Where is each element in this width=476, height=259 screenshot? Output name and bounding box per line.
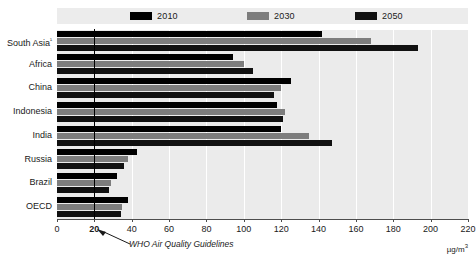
y-axis-label: Africa — [0, 60, 52, 69]
x-tick-label: 200 — [423, 225, 438, 234]
bar — [57, 187, 109, 193]
bar — [57, 45, 418, 51]
gridline-220 — [468, 29, 469, 219]
x-axis-line — [57, 219, 468, 220]
x-tick — [319, 219, 320, 222]
x-tick — [94, 219, 95, 222]
x-tick — [281, 219, 282, 222]
bar-group — [57, 78, 468, 100]
legend-label-2030: 2030 — [274, 12, 295, 21]
bar — [57, 116, 283, 122]
who-guideline-annotation: WHO Air Quality Guidelines — [129, 240, 234, 249]
x-tick-label: 180 — [386, 225, 401, 234]
bar — [57, 149, 137, 155]
x-tick-label: 120 — [274, 225, 289, 234]
bar — [57, 211, 121, 217]
bar-group — [57, 126, 468, 148]
bar — [57, 38, 371, 44]
bar — [57, 163, 124, 169]
bar — [57, 92, 274, 98]
y-axis-label: South Asia¹ — [0, 36, 52, 48]
y-axis-label: OECD — [0, 202, 52, 211]
bar-group — [57, 197, 468, 219]
bar — [57, 61, 244, 67]
who-guideline-reference-line — [94, 29, 95, 219]
bar — [57, 85, 281, 91]
x-tick — [169, 219, 170, 222]
bar-group — [57, 173, 468, 195]
x-tick — [393, 219, 394, 222]
bar — [57, 197, 128, 203]
callout-arrow-icon — [96, 228, 132, 246]
bar-group — [57, 54, 468, 76]
y-axis-label: Brazil — [0, 178, 52, 187]
bar — [57, 173, 117, 179]
bar — [57, 31, 322, 37]
x-tick — [356, 219, 357, 222]
x-tick-label: 80 — [201, 225, 211, 234]
x-tick — [132, 219, 133, 222]
bar — [57, 140, 332, 146]
x-tick — [468, 219, 469, 222]
plot-area — [57, 29, 468, 219]
unit-exponent: 3 — [465, 243, 468, 249]
bar — [57, 204, 122, 210]
x-tick-label: 60 — [164, 225, 174, 234]
x-tick-label: 100 — [236, 225, 251, 234]
bar — [57, 68, 253, 74]
legend-label-2010: 2010 — [157, 12, 178, 21]
legend-item-2010[interactable]: 2010 — [130, 8, 178, 24]
bar — [57, 54, 233, 60]
bar-group — [57, 102, 468, 124]
x-tick — [206, 219, 207, 222]
y-axis-label: China — [0, 83, 52, 92]
legend-item-2030[interactable]: 2030 — [247, 8, 295, 24]
y-axis-label: Indonesia — [0, 107, 52, 116]
y-axis-label: Russia — [0, 155, 52, 164]
chart-legend: 2010 2030 2050 — [57, 8, 468, 24]
bar — [57, 126, 281, 132]
legend-label-2050: 2050 — [382, 12, 403, 21]
bar — [57, 102, 277, 108]
bar — [57, 180, 111, 186]
bar — [57, 78, 291, 84]
bar — [57, 109, 285, 115]
bar-group — [57, 31, 468, 53]
legend-item-2050[interactable]: 2050 — [355, 8, 403, 24]
x-tick — [244, 219, 245, 222]
x-tick-label: 160 — [348, 225, 363, 234]
x-axis-unit-label: µg/m3 — [447, 242, 468, 254]
legend-swatch-2030 — [247, 12, 269, 20]
legend-swatch-2010 — [130, 12, 152, 20]
legend-swatch-2050 — [355, 12, 377, 20]
y-axis-label: India — [0, 131, 52, 140]
bar — [57, 156, 128, 162]
x-tick-label: 140 — [311, 225, 326, 234]
y-axis-labels: South Asia¹AfricaChinaIndonesiaIndiaRuss… — [0, 29, 52, 219]
x-tick — [57, 219, 58, 222]
x-tick — [431, 219, 432, 222]
x-tick-label: 220 — [460, 225, 475, 234]
x-tick-label: 0 — [54, 225, 59, 234]
bar-group — [57, 149, 468, 171]
unit-text: µg/m — [447, 245, 465, 254]
